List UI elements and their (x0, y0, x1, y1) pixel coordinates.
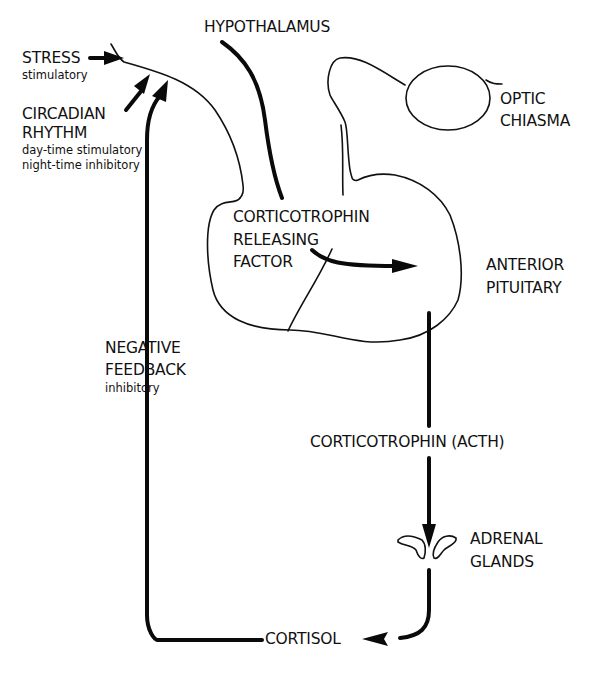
circadian-label-group: CIRCADIAN RHYTHM day-time stimulatory ni… (22, 107, 142, 171)
adrenal-gland-right (433, 536, 456, 558)
adrenal-glands-line2: GLANDS (470, 555, 543, 571)
stress-label: STRESS (22, 51, 88, 67)
circadian-title-line2: RHYTHM (22, 126, 142, 142)
optic-chiasma-shape (406, 66, 490, 130)
optic-chiasma-line1: OPTIC (500, 92, 570, 108)
hypothalamus-label: HYPOTHALAMUS (204, 20, 330, 36)
pituitary-stalk-line (341, 125, 343, 195)
pituitary-outline (208, 58, 462, 342)
crf-line2: RELEASING (233, 233, 370, 249)
stress-effect-label: stimulatory (22, 70, 88, 82)
cortisol-label: CORTISOL (265, 632, 341, 648)
circadian-arrow-head (134, 74, 150, 94)
crf-label: CORTICOTROPHIN RELEASING FACTOR (233, 210, 370, 271)
cortisol-arrow-head (362, 632, 388, 646)
optic-chiasma-label: OPTIC CHIASMA (500, 92, 570, 129)
crf-line1: CORTICOTROPHIN (233, 210, 370, 226)
optic-chiasma-line2: CHIASMA (500, 114, 570, 130)
circadian-effect-line1: day-time stimulatory (22, 145, 142, 157)
anterior-pituitary-line1: ANTERIOR (486, 258, 564, 274)
optic-chiasma-tail (486, 80, 502, 84)
anterior-pituitary-label: ANTERIOR PITUITARY (486, 258, 564, 296)
crf-line3: FACTOR (233, 255, 370, 271)
stress-arrow-head (104, 51, 124, 65)
negative-feedback-arrow-head (152, 80, 168, 102)
negative-feedback-label: NEGATIVE FEEDBACK inhibitory (105, 341, 186, 395)
adrenal-glands-line1: ADRENAL (470, 532, 543, 548)
circadian-effect-line2: night-time inhibitory (22, 160, 142, 172)
adrenal-glands-label: ADRENAL GLANDS (470, 532, 543, 570)
anterior-pituitary-line2: PITUITARY (486, 281, 564, 297)
stress-label-group: STRESS stimulatory (22, 51, 88, 81)
negative-feedback-effect: inhibitory (105, 383, 186, 395)
acth-label: CORTICOTROPHIN (ACTH) (310, 433, 504, 453)
adrenal-to-cortisol-line (400, 570, 429, 638)
negative-feedback-line2: FEEDBACK (105, 363, 186, 379)
crf-arrow-head (392, 259, 418, 273)
adrenal-gland-left (398, 536, 425, 558)
hypothalamus-tract (222, 42, 282, 198)
circadian-title-line1: CIRCADIAN (22, 107, 142, 123)
negative-feedback-line1: NEGATIVE (105, 341, 186, 357)
